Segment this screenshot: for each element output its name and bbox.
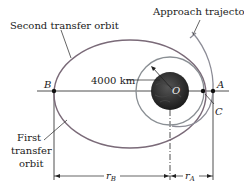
label-radius: 4000 km bbox=[91, 75, 136, 86]
second-orbit-leader bbox=[61, 30, 71, 58]
point-c bbox=[201, 89, 205, 93]
orbit-diagram: Second transfer orbit Approach trajector… bbox=[0, 0, 244, 185]
label-approach: Approach trajectory bbox=[152, 6, 244, 17]
approach-leader bbox=[193, 20, 200, 35]
label-first-3: orbit bbox=[19, 158, 43, 169]
label-a: A bbox=[216, 79, 224, 90]
planet bbox=[151, 72, 189, 110]
point-a bbox=[211, 89, 215, 93]
first-orbit-leader bbox=[44, 120, 67, 140]
label-o: O bbox=[172, 85, 180, 96]
label-b: B bbox=[43, 79, 51, 90]
label-first-1: First bbox=[17, 132, 41, 143]
point-b bbox=[52, 89, 56, 93]
label-c: C bbox=[215, 106, 223, 117]
label-second-orbit: Second transfer orbit bbox=[10, 20, 119, 31]
label-first-2: transfer bbox=[11, 145, 52, 156]
